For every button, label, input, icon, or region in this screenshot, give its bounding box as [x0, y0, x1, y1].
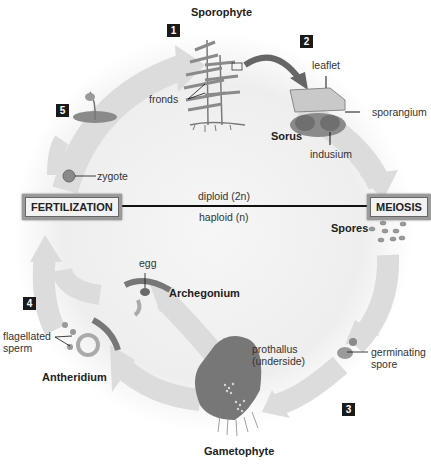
- spores-label: Spores: [331, 222, 368, 234]
- zygote-label: zygote: [97, 170, 128, 182]
- sporophyte-title: Sporophyte: [191, 6, 252, 18]
- step-3-badge: 3: [342, 403, 355, 416]
- fertilization-box: FERTILIZATION: [22, 194, 122, 220]
- haploid-label: haploid (n): [199, 211, 249, 223]
- zygote-illustration: [63, 170, 75, 182]
- leaflet-label: leaflet: [312, 59, 340, 71]
- step-5-badge: 5: [56, 104, 69, 117]
- sperm-label: sperm: [3, 342, 32, 354]
- diploid-label: diploid (2n): [198, 190, 250, 202]
- spore-label: spore: [371, 358, 397, 370]
- underside-label: (underside): [252, 355, 305, 367]
- step-4-badge: 4: [23, 297, 36, 310]
- fertilization-label: FERTILIZATION: [25, 197, 119, 217]
- indusium-label: indusium: [310, 148, 352, 160]
- step-2-badge: 2: [300, 35, 313, 48]
- meiosis-box: MEIOSIS: [367, 194, 431, 220]
- fronds-label: fronds: [149, 93, 178, 105]
- flagellated-label: flagellated: [3, 330, 51, 342]
- sporangium-label: sporangium: [372, 106, 427, 118]
- prothallus-label: prothallus: [252, 343, 298, 355]
- germinating-label: germinating: [371, 346, 426, 358]
- antheridium-label: Antheridium: [42, 371, 107, 383]
- gametophyte-title: Gametophyte: [204, 445, 274, 457]
- step-1-badge: 1: [167, 24, 180, 37]
- sorus-label: Sorus: [271, 130, 302, 142]
- meiosis-label: MEIOSIS: [370, 197, 428, 217]
- archegonium-label: Archegonium: [169, 287, 240, 299]
- egg-label: egg: [139, 257, 157, 269]
